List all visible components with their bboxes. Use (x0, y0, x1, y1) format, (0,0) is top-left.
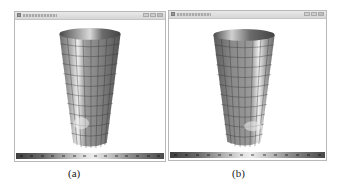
window-controls (304, 12, 324, 16)
app-icon (171, 12, 175, 16)
window-title (177, 13, 211, 16)
color-scale-bar (16, 153, 164, 159)
cylinder-mesh-render (170, 19, 325, 151)
3d-viewport[interactable] (170, 19, 325, 151)
minimize-button[interactable] (304, 12, 310, 16)
caption-b: (b) (232, 167, 245, 179)
close-button[interactable] (318, 12, 324, 16)
window-controls (143, 13, 163, 17)
window-panel-b (168, 10, 327, 161)
title-bar[interactable] (169, 11, 326, 19)
window-panel-a (14, 11, 166, 162)
app-icon (17, 13, 21, 17)
window-title (23, 14, 57, 17)
color-scale-ticks (16, 155, 164, 157)
cylinder-mesh-render (16, 20, 164, 152)
color-scale-bar (170, 152, 325, 158)
maximize-button[interactable] (150, 13, 156, 17)
minimize-button[interactable] (143, 13, 149, 17)
3d-viewport[interactable] (16, 20, 164, 152)
title-bar[interactable] (15, 12, 165, 20)
close-button[interactable] (157, 13, 163, 17)
caption-a: (a) (68, 167, 80, 179)
maximize-button[interactable] (311, 12, 317, 16)
color-scale-ticks (170, 154, 325, 156)
